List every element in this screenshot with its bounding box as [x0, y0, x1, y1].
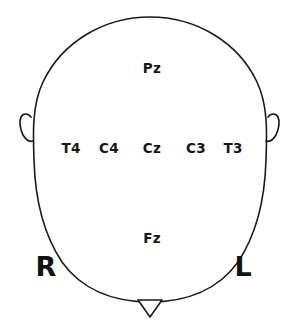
electrode-label-c3: C3: [186, 142, 206, 156]
eeg-head-diagram: Pz T4 C4 Cz C3 T3 Fz R L: [0, 0, 298, 321]
electrode-label-pz: Pz: [143, 62, 161, 76]
nose-icon: [138, 300, 162, 317]
electrode-label-c4: C4: [99, 142, 119, 156]
orientation-marker-right: R: [36, 253, 57, 280]
electrode-label-cz: Cz: [143, 142, 161, 156]
electrode-label-fz: Fz: [143, 232, 161, 246]
ear-left-side-icon: [266, 114, 279, 141]
ear-right-side-icon: [20, 114, 33, 141]
orientation-marker-left: L: [234, 253, 251, 280]
electrode-label-t3: T3: [223, 142, 242, 156]
electrode-label-t4: T4: [61, 142, 80, 156]
